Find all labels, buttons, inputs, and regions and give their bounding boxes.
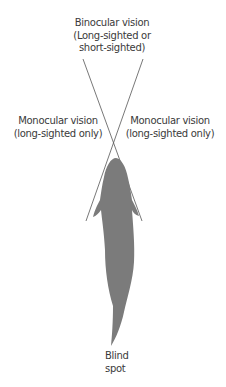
monocular-right-line-1: Monocular vision xyxy=(114,115,226,128)
binocular-line-2: (Long-sighted or xyxy=(62,30,162,43)
monocular-right-label: Monocular vision (long-sighted only) xyxy=(114,115,226,140)
blind-spot-label: Blind spot xyxy=(96,350,145,375)
blind-spot-line-1: Blind xyxy=(105,350,145,363)
binocular-line-3: short-sighted) xyxy=(62,42,162,55)
monocular-left-line-2: (long-sighted only) xyxy=(2,128,114,141)
binocular-line-1: Binocular vision xyxy=(62,17,162,30)
blind-spot-line-2: spot xyxy=(105,363,145,376)
monocular-left-label: Monocular vision (long-sighted only) xyxy=(2,115,114,140)
monocular-left-line-1: Monocular vision xyxy=(2,115,114,128)
vision-field-diagram xyxy=(0,0,226,387)
monocular-right-line-2: (long-sighted only) xyxy=(114,128,226,141)
binocular-vision-label: Binocular vision (Long-sighted or short-… xyxy=(62,17,162,55)
fish-silhouette xyxy=(93,158,139,346)
